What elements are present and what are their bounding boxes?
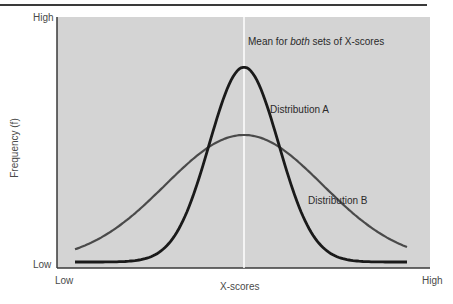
y-tick-low: Low [33, 259, 51, 270]
x-axis-label: X-scores [220, 281, 259, 292]
y-tick-high: High [33, 12, 54, 23]
distribution-b-label: Distribution B [308, 195, 367, 206]
mean-annotation: Mean for both sets of X-scores [248, 36, 384, 47]
x-tick-low: Low [55, 275, 73, 286]
y-axis-label: Frequency (f) [9, 118, 20, 177]
distribution-chart [0, 0, 453, 304]
distribution-a-label: Distribution A [270, 104, 329, 115]
x-tick-high: High [422, 275, 443, 286]
